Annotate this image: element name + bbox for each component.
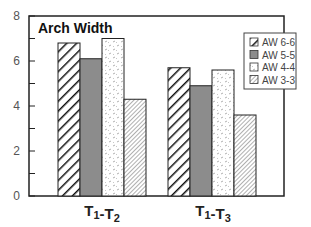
chart-title: Arch Width <box>38 20 113 36</box>
y-tick-label: 4 <box>13 99 20 113</box>
bar <box>102 39 124 197</box>
x-axis-labels: T1-T2T1-T3 <box>84 202 231 224</box>
bars <box>58 39 256 197</box>
y-axis: 02468 <box>13 9 35 203</box>
x-category-label: T1-T2 <box>84 202 120 224</box>
legend-swatch <box>250 38 258 46</box>
y-tick-label: 8 <box>13 9 20 23</box>
bar <box>190 86 212 196</box>
y-tick-label: 2 <box>13 144 20 158</box>
bar <box>124 99 146 196</box>
y-tick-label: 0 <box>13 189 20 203</box>
bar <box>168 68 190 196</box>
y-tick-label: 6 <box>13 54 20 68</box>
bar <box>234 115 256 196</box>
legend: AW 6-6AW 5-5AW 4-4AW 3-3 <box>244 33 296 89</box>
legend-swatch <box>250 51 258 59</box>
legend-label: AW 6-6 <box>262 37 295 48</box>
legend-swatch <box>250 63 258 71</box>
bar <box>58 43 80 196</box>
bar <box>80 59 102 196</box>
legend-label: AW 4-4 <box>262 62 295 73</box>
legend-label: AW 3-3 <box>262 75 295 86</box>
legend-swatch <box>250 76 258 84</box>
legend-label: AW 5-5 <box>262 50 295 61</box>
bar <box>212 70 234 196</box>
bar-chart: 02468 Arch Width T1-T2T1-T3 AW 6-6AW 5-5… <box>0 0 311 227</box>
x-category-label: T1-T3 <box>195 202 231 224</box>
